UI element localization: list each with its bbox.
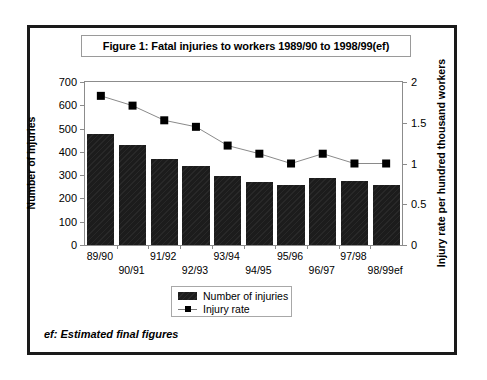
legend-label-number-of-injuries: Number of injuries <box>203 290 288 302</box>
x-axis-label-93-94: 93/94 <box>214 250 240 262</box>
left-axis-tick-label: 0 <box>37 239 77 251</box>
x-axis-tick <box>244 245 245 249</box>
x-axis-tick <box>180 245 181 249</box>
x-axis-tick <box>117 245 118 249</box>
left-axis-tick <box>80 175 85 176</box>
injury-rate-marker-96-97 <box>319 150 327 158</box>
right-axis-tick <box>402 123 407 124</box>
x-axis-tick <box>370 245 371 249</box>
left-axis-tick <box>80 245 85 246</box>
x-axis-tick <box>148 245 149 249</box>
legend-label-injury-rate: Injury rate <box>203 303 250 315</box>
x-axis-label-96-97: 96/97 <box>309 264 335 276</box>
injury-rate-marker-93-94 <box>224 142 232 150</box>
x-axis-label-98-99ef: 98/99ef <box>368 264 403 276</box>
plot-area: 010020030040050060070000.511.52 <box>84 81 403 246</box>
injury-rate-line-layer <box>85 82 402 245</box>
left-axis-tick-label: 400 <box>37 146 77 158</box>
right-axis-tick-label: 1.5 <box>411 117 441 129</box>
legend-item-number-of-injuries: Number of injuries <box>178 290 286 302</box>
injury-rate-line-svg <box>85 82 402 245</box>
left-axis-tick <box>80 222 85 223</box>
left-axis-tick-label: 600 <box>37 99 77 111</box>
left-axis-tick <box>80 129 85 130</box>
x-axis-label-91-92: 91/92 <box>150 250 176 262</box>
injury-rate-marker-90-91 <box>129 102 137 110</box>
x-axis-label-97-98: 97/98 <box>340 250 366 262</box>
right-axis-tick-label: 0.5 <box>411 198 441 210</box>
injury-rate-marker-89-90 <box>97 92 105 100</box>
x-axis-label-94-95: 94/95 <box>245 264 271 276</box>
legend-line-marker-icon <box>178 305 197 313</box>
injury-rate-marker-97-98 <box>350 160 358 168</box>
figure-title-box: Figure 1: Fatal injuries to workers 1989… <box>81 35 411 57</box>
x-axis-tick <box>275 245 276 249</box>
figure-frame: Figure 1: Fatal injuries to workers 1989… <box>27 25 457 355</box>
right-axis-tick <box>402 204 407 205</box>
legend-bar-swatch-icon <box>178 292 197 300</box>
right-axis-tick-label: 2 <box>411 76 441 88</box>
left-axis-tick-label: 700 <box>37 76 77 88</box>
right-axis-tick-label: 1 <box>411 158 441 170</box>
x-axis-tick <box>307 245 308 249</box>
x-axis-label-95-96: 95/96 <box>277 250 303 262</box>
figure-title: Figure 1: Fatal injuries to workers 1989… <box>103 40 389 52</box>
injury-rate-marker-95-96 <box>287 160 295 168</box>
injury-rate-marker-91-92 <box>160 116 168 124</box>
right-axis-tick-label: 0 <box>411 239 441 251</box>
right-axis-tick <box>402 245 407 246</box>
left-axis-title: Number of injuries <box>24 81 38 244</box>
left-axis-tick <box>80 152 85 153</box>
chart-legend: Number of injuries Injury rate <box>171 286 292 317</box>
left-axis-tick <box>80 105 85 106</box>
left-axis-title-label: Number of injuries <box>25 116 37 209</box>
left-axis-tick-label: 500 <box>37 123 77 135</box>
injury-rate-marker-98-99ef <box>382 160 390 168</box>
left-axis-tick-label: 200 <box>37 192 77 204</box>
left-axis-tick <box>80 82 85 83</box>
injury-rate-marker-92-93 <box>192 123 200 131</box>
legend-item-injury-rate: Injury rate <box>178 303 286 315</box>
x-axis-label-89-90: 89/90 <box>87 250 113 262</box>
x-axis-label-92-93: 92/93 <box>182 264 208 276</box>
left-axis-tick-label: 300 <box>37 169 77 181</box>
right-axis-tick <box>402 82 407 83</box>
right-axis-tick <box>402 164 407 165</box>
figure-footnote: ef: Estimated final figures <box>44 328 178 340</box>
x-axis-tick <box>339 245 340 249</box>
injury-rate-polyline <box>101 96 386 164</box>
injury-rate-marker-94-95 <box>255 150 263 158</box>
x-axis-label-90-91: 90/91 <box>118 264 144 276</box>
x-axis-tick <box>212 245 213 249</box>
left-axis-tick <box>80 198 85 199</box>
left-axis-tick-label: 100 <box>37 216 77 228</box>
